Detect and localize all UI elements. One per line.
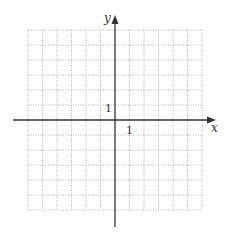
x-tick-label: 1 xyxy=(126,124,133,137)
y-tick-label: 1 xyxy=(105,102,112,115)
x-axis-label: x xyxy=(211,121,218,135)
coordinate-plane: x y 1 1 xyxy=(0,0,229,237)
y-axis-label: y xyxy=(103,11,111,25)
y-axis-arrow-icon xyxy=(112,15,119,24)
